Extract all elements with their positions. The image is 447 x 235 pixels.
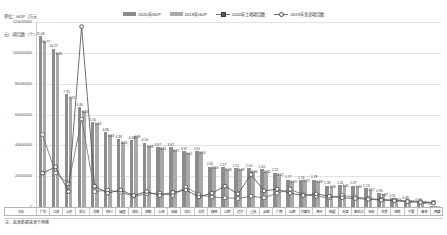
circle-marker-icon[interactable] [184, 188, 188, 192]
circle-marker-icon[interactable] [301, 194, 305, 198]
legend-item-1[interactable]: 2020年GDP [123, 11, 160, 17]
legend-item-3[interactable]: 2020年土地项目数 [216, 11, 265, 17]
legend-item-2[interactable]: 2019年GDP [170, 11, 207, 17]
x-axis-category-cell[interactable]: 西藏 [431, 208, 444, 215]
x-axis-category-cell[interactable]: 青海 [418, 208, 431, 215]
note-divider [4, 218, 443, 219]
x-axis-category-cell[interactable]: 浙江 [76, 208, 89, 215]
square-marker-icon[interactable] [41, 133, 44, 136]
y-axis-tick-label: 100000000 [0, 51, 32, 55]
circle-marker-icon[interactable] [210, 191, 214, 195]
x-axis-category-cell[interactable]: 江苏 [50, 208, 63, 215]
square-marker-icon[interactable] [93, 190, 96, 193]
circle-marker-icon[interactable] [392, 199, 396, 203]
x-axis-category-cell[interactable]: 天津 [339, 208, 352, 215]
unit-caption-line2: 元）/项目数（个） [4, 32, 37, 38]
square-marker-icon[interactable] [67, 182, 70, 185]
legend-square-marker-icon [221, 12, 226, 17]
x-axis-category-cell[interactable]: 山西 [286, 208, 299, 215]
x-axis-category-table: 地区广东江苏山东浙江河南四川福建湖北湖南上海安徽河北北京陕西江西辽宁重庆云南广西… [4, 207, 443, 216]
chart-note: 注：此表数据来源于网络 [5, 219, 49, 225]
square-marker-icon[interactable] [262, 196, 265, 199]
circle-marker-icon[interactable] [353, 197, 357, 201]
y-axis-tick-label: 40000000 [0, 143, 32, 147]
legend-item-label: 2020年土地项目数 [232, 11, 265, 17]
circle-marker-icon[interactable] [171, 190, 175, 194]
legend-item-label: 2020年GDP [138, 11, 160, 17]
line-series-layer [36, 22, 440, 207]
square-marker-icon[interactable] [80, 117, 83, 120]
x-axis-category-cell[interactable]: 内蒙古 [300, 208, 313, 215]
circle-marker-icon[interactable] [106, 191, 110, 195]
x-axis-category-cell[interactable]: 上海 [155, 208, 168, 215]
legend-line-swatch-icon [216, 12, 230, 17]
circle-marker-icon[interactable] [132, 194, 136, 198]
legend-item-label: 2019年全途项目数 [290, 11, 323, 17]
legend-bar-swatch-icon [123, 12, 136, 16]
circle-marker-icon[interactable] [366, 197, 370, 201]
circle-marker-icon[interactable] [54, 165, 58, 169]
circle-marker-icon[interactable] [197, 195, 201, 199]
legend-item-4[interactable]: 2019年全途项目数 [274, 11, 323, 17]
chart-page: 单位：GDP（万元 元）/项目数（个） 2020年GDP2019年GDP2020… [0, 0, 447, 235]
x-axis-category-cell[interactable]: 山东 [63, 208, 76, 215]
square-marker-icon[interactable] [210, 195, 213, 198]
circle-marker-icon[interactable] [236, 192, 240, 196]
circle-marker-icon[interactable] [288, 191, 292, 195]
circle-marker-icon[interactable] [41, 171, 45, 175]
x-axis-category-cell[interactable]: 黑龙江 [352, 208, 365, 215]
x-axis-category-cell[interactable]: 宁夏 [405, 208, 418, 215]
circle-marker-icon[interactable] [249, 173, 253, 177]
square-marker-icon[interactable] [275, 191, 278, 194]
x-axis-category-cell[interactable]: 广西 [273, 208, 286, 215]
y-axis-tick-label: 120000000 [0, 20, 32, 24]
square-marker-icon[interactable] [236, 197, 239, 200]
x-axis-category-cell[interactable]: 河北 [181, 208, 194, 215]
x-axis-category-cell[interactable]: 重庆 [247, 208, 260, 215]
circle-marker-icon[interactable] [406, 200, 410, 204]
circle-marker-icon[interactable] [119, 188, 123, 192]
x-axis-category-cell[interactable]: 新疆 [326, 208, 339, 215]
circle-marker-icon[interactable] [223, 184, 227, 188]
circle-marker-icon[interactable] [67, 190, 71, 194]
circle-marker-icon[interactable] [432, 201, 436, 205]
x-axis-category-cell[interactable]: 广东 [37, 208, 50, 215]
circle-marker-icon[interactable] [275, 187, 279, 191]
square-marker-icon[interactable] [288, 188, 291, 191]
x-axis-category-cell[interactable]: 辽宁 [234, 208, 247, 215]
circle-marker-icon[interactable] [340, 196, 344, 200]
x-axis-category-cell[interactable]: 江西 [221, 208, 234, 215]
x-axis-category-cell[interactable]: 四川 [103, 208, 116, 215]
line-path-2019-projects [43, 27, 434, 204]
x-axis-header-cell: 地区 [5, 208, 37, 215]
square-marker-icon[interactable] [249, 195, 252, 198]
x-axis-category-cell[interactable]: 贵州 [313, 208, 326, 215]
circle-marker-icon[interactable] [80, 25, 84, 29]
x-axis-category-cell[interactable]: 海南 [391, 208, 404, 215]
circle-marker-icon[interactable] [262, 189, 266, 193]
x-axis-category-cell[interactable]: 甘肃 [378, 208, 391, 215]
circle-marker-icon[interactable] [158, 194, 162, 198]
legend-line-swatch-icon [274, 12, 288, 17]
x-axis-category-cell[interactable]: 河南 [90, 208, 103, 215]
x-axis-category-cell[interactable]: 北京 [195, 208, 208, 215]
chart-legend: 2020年GDP2019年GDP2020年土地项目数2019年全途项目数 [0, 11, 447, 17]
x-axis-category-cell[interactable]: 安徽 [168, 208, 181, 215]
x-axis-category-cell[interactable]: 福建 [116, 208, 129, 215]
circle-marker-icon[interactable] [314, 192, 318, 196]
x-axis-category-cell[interactable]: 吉林 [365, 208, 378, 215]
square-marker-icon[interactable] [54, 171, 57, 174]
circle-marker-icon[interactable] [145, 190, 149, 194]
x-axis-category-cell[interactable]: 陕西 [208, 208, 221, 215]
y-axis-tick-label: 60000000 [0, 113, 32, 117]
circle-marker-icon[interactable] [419, 200, 423, 204]
circle-marker-icon[interactable] [327, 194, 331, 198]
x-axis-category-cell[interactable]: 湖南 [142, 208, 155, 215]
circle-marker-icon[interactable] [93, 184, 97, 188]
x-axis-category-cell[interactable]: 湖北 [129, 208, 142, 215]
legend-bar-swatch-icon [170, 12, 183, 16]
square-marker-icon[interactable] [223, 196, 226, 199]
circle-marker-icon[interactable] [379, 198, 383, 202]
legend-item-label: 2019年GDP [185, 11, 207, 17]
x-axis-category-cell[interactable]: 云南 [260, 208, 273, 215]
